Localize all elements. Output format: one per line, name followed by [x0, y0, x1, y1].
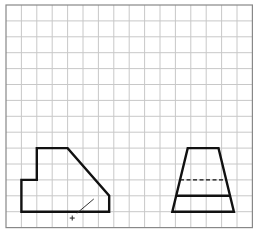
center-mark-icon — [70, 216, 75, 221]
grid-lines — [6, 5, 252, 228]
front-view — [21, 148, 109, 220]
drawing-views — [21, 148, 234, 220]
drawing-canvas — [0, 0, 258, 236]
